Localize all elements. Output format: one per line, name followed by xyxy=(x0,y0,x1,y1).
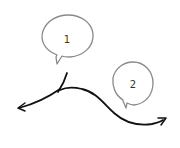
diagram-svg xyxy=(0,0,180,148)
left-arrow-curve xyxy=(19,89,60,108)
callout-label-1: 1 xyxy=(64,35,70,45)
callout-label-2: 2 xyxy=(130,80,136,90)
diagram-canvas: 1 2 xyxy=(0,0,180,148)
